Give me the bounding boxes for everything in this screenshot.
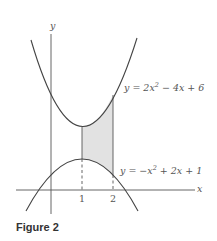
figure-plot	[0, 0, 217, 241]
upper-parabola	[31, 38, 137, 127]
x-axis-label: x	[197, 183, 202, 194]
figure-caption: Figure 2	[16, 221, 59, 233]
y-axis-label: y	[50, 20, 55, 31]
lower-curve-label: y = −x2 + 2x + 1	[120, 165, 202, 176]
upper-curve-label: y = 2x2 − 4x + 6	[124, 82, 204, 93]
tick-label-2: 2	[110, 193, 116, 204]
tick-label-1: 1	[79, 193, 85, 204]
